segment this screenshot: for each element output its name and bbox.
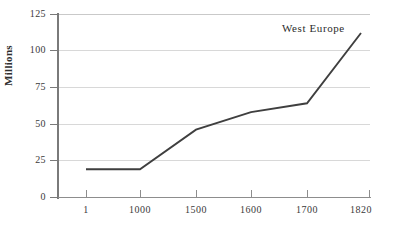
chart-page: 125 100 75 50 25 0 1 1000 1500 1600 1700… bbox=[0, 0, 402, 242]
data-line-layer bbox=[0, 0, 402, 242]
series-line-west-europe bbox=[86, 33, 361, 169]
